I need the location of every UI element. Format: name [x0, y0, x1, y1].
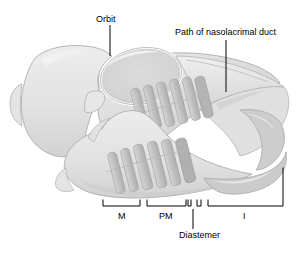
label-premolars: PM: [159, 211, 173, 221]
label-orbit: Orbit: [96, 14, 116, 24]
occipital-process: [10, 84, 22, 126]
skull-diagram-figure: Orbit Path of nasolacrimal duct M PM I D…: [0, 0, 296, 254]
skull-illustration: [0, 0, 296, 254]
label-nasolacrimal-duct: Path of nasolacrimal duct: [175, 27, 276, 37]
bracket-premolars: [147, 200, 186, 206]
bracket-diastema-right: [197, 200, 201, 206]
label-molars: M: [118, 211, 126, 221]
label-diastema: Diastemer: [179, 230, 220, 240]
bracket-molars: [103, 200, 140, 206]
bracket-diastema-left: [188, 200, 191, 206]
label-incisors: I: [243, 211, 246, 221]
